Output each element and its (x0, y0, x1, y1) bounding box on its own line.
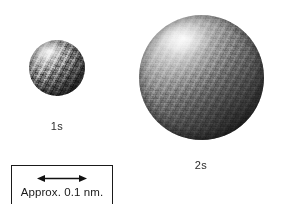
scale-bar-box: Approx. 0.1 nm. (11, 165, 113, 204)
scale-bar-caption: Approx. 0.1 nm. (12, 186, 112, 199)
orbital-sphere-1s (29, 40, 85, 96)
sphere-2s-rim-shading (139, 15, 264, 140)
sphere-1s-rim-shading (29, 40, 85, 96)
orbital-label-2s: 2s (161, 159, 241, 171)
orbital-size-comparison-figure: 1s 2s Approx. 0.1 nm. (0, 0, 281, 204)
orbital-sphere-2s (139, 15, 264, 140)
orbital-label-1s: 1s (17, 120, 97, 132)
double-headed-arrow-icon (37, 173, 87, 184)
